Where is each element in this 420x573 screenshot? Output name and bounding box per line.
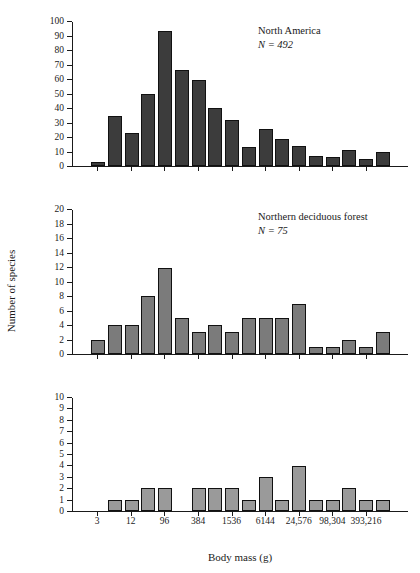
bar (359, 500, 373, 511)
x-tick (299, 167, 300, 171)
x-tick (299, 355, 300, 359)
bar (326, 347, 340, 354)
x-tick (164, 167, 165, 171)
y-tick-label: 9 (59, 405, 64, 415)
y-tick-label: 6 (59, 439, 64, 449)
bar (108, 116, 122, 166)
bar (359, 159, 373, 166)
y-tick-label: 16 (55, 234, 65, 244)
y-tick-label: 90 (55, 32, 65, 42)
y-tick (67, 431, 72, 432)
y-tick (67, 325, 72, 326)
y-tick (67, 500, 72, 501)
bar (242, 500, 256, 511)
y-tick (67, 267, 72, 268)
bar (158, 31, 172, 166)
bar-group (73, 398, 408, 511)
y-tick-label: 7 (59, 427, 64, 437)
y-tick (67, 21, 72, 22)
panel-northern-deciduous-forest: 02468101214161820 Northern deciduous for… (0, 196, 420, 381)
y-tick-label: 0 (59, 507, 64, 517)
panel-title: North America (258, 24, 321, 38)
bar (326, 157, 340, 166)
y-tick-label: 20 (55, 133, 65, 143)
y-tick (67, 354, 72, 355)
bar (359, 347, 373, 354)
bar (326, 500, 340, 511)
y-tick (67, 477, 72, 478)
panel-north-america: 0102030405060708090100 North America N =… (0, 8, 420, 193)
bar (275, 318, 289, 354)
y-tick (67, 36, 72, 37)
bar (175, 70, 189, 166)
bar (242, 318, 256, 354)
x-tick-label: 1536 (222, 517, 241, 527)
y-tick (67, 137, 72, 138)
y-tick-label: 4 (59, 462, 64, 472)
bar (292, 146, 306, 166)
y-tick-label: 3 (59, 473, 64, 483)
x-tick-label: 96 (160, 517, 170, 527)
y-tick (67, 79, 72, 80)
bar (108, 325, 122, 354)
bar (125, 325, 139, 354)
bar (309, 347, 323, 354)
panel-title: Northern deciduous forest (258, 210, 368, 224)
bar (158, 268, 172, 354)
bar (225, 332, 239, 354)
x-tick (131, 355, 132, 359)
x-tick-label: 393,216 (351, 517, 382, 527)
x-tick (232, 355, 233, 359)
y-tick-label: 8 (59, 416, 64, 426)
y-tick (67, 209, 72, 210)
y-tick-label: 14 (55, 249, 65, 259)
y-tick (67, 166, 72, 167)
y-tick (67, 50, 72, 51)
y-tick-label: 30 (55, 119, 65, 129)
bar (376, 152, 390, 166)
x-tick (198, 167, 199, 171)
x-axis-line (72, 166, 408, 167)
y-tick (67, 123, 72, 124)
bar (192, 80, 206, 166)
y-tick-label: 4 (59, 321, 64, 331)
y-tick (67, 454, 72, 455)
x-tick (164, 355, 165, 359)
y-tick-label: 100 (50, 17, 64, 27)
y-tick (67, 408, 72, 409)
y-tick-label: 2 (59, 336, 64, 346)
x-tick (265, 355, 266, 359)
x-tick (232, 167, 233, 171)
y-tick-label: 50 (55, 90, 65, 100)
y-tick-label: 10 (55, 148, 65, 158)
y-tick (67, 296, 72, 297)
y-tick-label: 18 (55, 220, 65, 230)
y-tick (67, 488, 72, 489)
y-tick (67, 420, 72, 421)
x-tick (97, 167, 98, 171)
bar (192, 488, 206, 511)
y-tick-label: 60 (55, 75, 65, 85)
x-tick-label: 12 (126, 517, 136, 527)
y-tick-label: 1 (59, 496, 64, 506)
y-tick-label: 80 (55, 46, 65, 56)
y-tick-label: 6 (59, 307, 64, 317)
bar (225, 488, 239, 511)
y-tick-label: 70 (55, 61, 65, 71)
x-tick (366, 355, 367, 359)
y-tick (67, 443, 72, 444)
y-tick-label: 20 (55, 205, 65, 215)
x-tick-label: 98,304 (319, 517, 345, 527)
y-tick (67, 108, 72, 109)
bar (208, 325, 222, 354)
x-axis-line (72, 511, 408, 512)
x-tick (265, 167, 266, 171)
x-axis-line (72, 354, 408, 355)
bar-group (73, 22, 408, 166)
bar (192, 332, 206, 354)
x-axis-title: Body mass (g) (72, 551, 408, 563)
bar (141, 296, 155, 354)
bar (342, 488, 356, 511)
bar (125, 500, 139, 511)
y-tick (67, 224, 72, 225)
